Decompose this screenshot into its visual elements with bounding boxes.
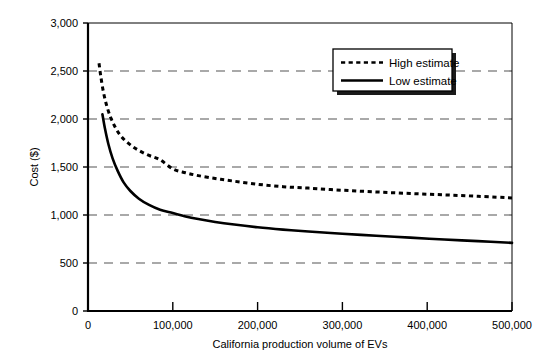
legend-label-low-estimate: Low estimate [389,75,457,87]
x-tick-label-300000: 300,000 [323,319,363,331]
y-tick-label-500: 500 [60,257,78,269]
y-tick-label-1500: 1,500 [50,161,78,173]
y-tick-label-3000: 3,000 [50,17,78,29]
x-tick-label-400000: 400,000 [407,319,447,331]
legend: High estimate Low estimate [333,49,459,95]
y-axis-title: Cost ($) [28,147,40,186]
y-tick-label-0: 0 [72,305,78,317]
legend-label-high-estimate: High estimate [389,57,459,69]
figure-background [0,0,556,364]
y-tick-label-1000: 1,000 [50,209,78,221]
x-tick-label-200000: 200,000 [238,319,278,331]
y-tick-label-2000: 2,000 [50,113,78,125]
x-tick-label-0: 0 [85,319,91,331]
x-axis-title: California production volume of EVs [213,338,388,350]
x-tick-label-100000: 100,000 [153,319,193,331]
chart-figure: 05001,0001,5002,0002,5003,000 0100,00020… [0,0,556,364]
x-tick-label-500000: 500,000 [492,319,532,331]
chart-canvas: 05001,0001,5002,0002,5003,000 0100,00020… [0,0,556,364]
y-tick-label-2500: 2,500 [50,65,78,77]
